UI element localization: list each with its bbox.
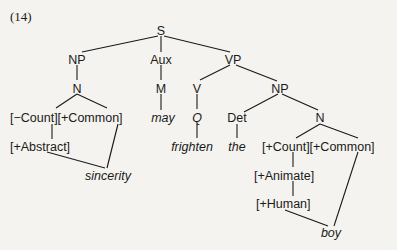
edge-np-det — [244, 94, 278, 112]
tree-edges — [47, 36, 358, 226]
feature-plus-abstract: [+Abstract] — [10, 140, 70, 154]
node-q: Q — [192, 111, 202, 125]
feature-plus-human: [+Human] — [256, 197, 311, 211]
edge-s-vp — [164, 36, 230, 52]
node-np-subject: NP — [68, 53, 85, 67]
node-s: S — [157, 24, 165, 38]
edge-vp-v — [200, 65, 230, 80]
feature-bundles: [−Count][+Common] [+Abstract] [+Count][+… — [10, 111, 375, 211]
example-number-label: (14) — [10, 9, 32, 24]
edge-n-common-obj — [320, 124, 358, 138]
word-boy: boy — [321, 226, 342, 240]
edge-s-np — [82, 36, 158, 52]
edge-common-sincerity — [107, 124, 118, 168]
edge-n-count-obj — [296, 124, 320, 138]
edge-np-n — [282, 94, 318, 110]
tree-nodes: S NP Aux VP N M V NP Q Det N — [68, 24, 324, 125]
node-det: Det — [227, 111, 247, 125]
word-the: the — [228, 140, 245, 154]
node-np-object: NP — [271, 82, 288, 96]
feature-plus-count-plus-common: [+Count][+Common] — [262, 140, 375, 154]
feature-plus-animate: [+Animate] — [254, 169, 314, 183]
node-v: V — [193, 82, 202, 96]
word-frighten: frighten — [171, 140, 213, 154]
node-n-object: N — [315, 111, 324, 125]
node-n-subject: N — [72, 82, 81, 96]
word-sincerity: sincerity — [85, 169, 132, 183]
edge-human-boy — [285, 210, 328, 226]
node-vp: VP — [225, 53, 242, 67]
edge-n-count — [56, 94, 77, 108]
node-aux: Aux — [150, 53, 172, 67]
feature-minus-count-plus-common: [−Count][+Common] — [10, 111, 123, 125]
edge-vp-np — [236, 65, 277, 81]
edge-common-boy — [334, 152, 358, 226]
edge-abstract-sincerity — [47, 152, 105, 168]
syntax-tree-diagram: (14) S NP Aux VP N M V NP Q Det N [−Coun… — [0, 0, 397, 250]
edge-n-common — [77, 94, 107, 108]
word-may: may — [151, 111, 175, 125]
node-m: M — [156, 82, 166, 96]
